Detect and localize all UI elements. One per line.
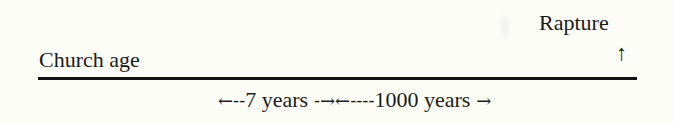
left-arrow-icon: ←-- <box>218 90 245 111</box>
thousand-years-label: 1000 years <box>374 87 470 112</box>
seven-years-label: 7 years <box>245 87 308 112</box>
timeline-line <box>38 77 637 80</box>
period-spans: ←--7 years -→←----1000 years → <box>218 89 491 111</box>
rapture-up-arrow-icon: ↑ <box>616 42 627 64</box>
right-arrow-icon: → <box>470 90 491 111</box>
right-arrow-icon: -→ <box>308 90 335 111</box>
rapture-label: Rapture <box>539 12 609 34</box>
left-arrow-icon: ←---- <box>335 90 374 111</box>
church-age-label: Church age <box>39 49 140 71</box>
thousand-years-span: ←----1000 years → <box>335 87 491 112</box>
seven-years-span: ←--7 years -→ <box>218 87 335 112</box>
scan-smudge <box>498 8 512 46</box>
